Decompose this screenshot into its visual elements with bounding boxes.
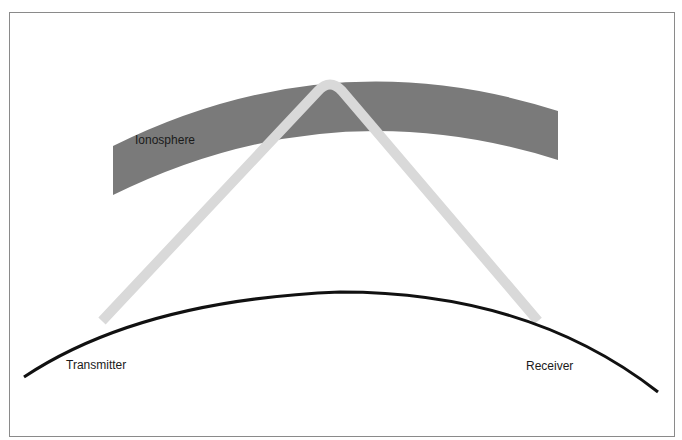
frame-border [10,13,675,437]
transmitter-label: Transmitter [66,358,126,372]
receiver-label: Receiver [526,359,573,373]
skywave-diagram [0,0,682,440]
ionosphere-label: Ionosphere [135,133,195,147]
